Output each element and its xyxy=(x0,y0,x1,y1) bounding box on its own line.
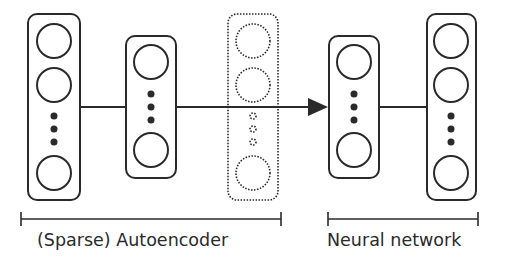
diagram-canvas xyxy=(0,0,505,268)
nn-hidden-layer xyxy=(329,36,379,178)
input-layer xyxy=(28,14,80,200)
output-layer xyxy=(427,14,476,200)
neural-network-label: Neural network xyxy=(327,230,461,250)
hidden-layer xyxy=(126,36,176,178)
arrow-head-icon xyxy=(308,98,328,116)
neural-network-bracket xyxy=(328,212,478,226)
autoencoder-label: (Sparse) Autoencoder xyxy=(37,230,228,250)
autoencoder-bracket xyxy=(21,212,281,226)
